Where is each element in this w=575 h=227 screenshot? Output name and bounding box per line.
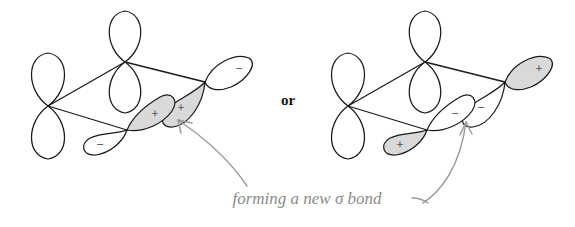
p-lobe-top — [32, 53, 65, 106]
p-lobe-bottom — [332, 106, 365, 159]
p-lobe-outer-plus — [384, 130, 427, 155]
right-orbital-structure: + − − + — [332, 11, 553, 159]
arrow-curve — [423, 122, 466, 203]
p-lobe-bottom — [32, 106, 65, 159]
sign-upper-inner: + — [177, 100, 184, 115]
p-lobe-outer-minus — [84, 130, 127, 155]
right-structure-center-p-orbital — [409, 11, 441, 113]
sign-upper-outer: + — [535, 61, 542, 76]
sign-right-lower-outer: + — [396, 137, 403, 152]
left-structure-center-p-orbital — [109, 11, 141, 113]
p-lobe-outer-minus — [205, 56, 252, 89]
sign-upper-inner: − — [477, 100, 484, 115]
left-annotation-arrow — [178, 120, 247, 186]
sign-lower-inner: + — [151, 106, 158, 121]
or-connector-label: or — [281, 92, 296, 108]
p-lobe-top — [332, 53, 365, 106]
p-lobe-bottom — [109, 62, 141, 113]
sign-lower-outer: − — [96, 137, 103, 152]
caption-label: forming a new σ bond — [232, 189, 382, 208]
p-lobe-bottom — [409, 62, 441, 113]
left-structure-left-p-orbital — [32, 53, 65, 159]
p-lobe-top — [409, 11, 441, 62]
right-annotation-arrow — [423, 122, 472, 203]
p-lobe-top — [109, 11, 141, 62]
orbital-overlap-figure: − + − + or + — [0, 0, 575, 227]
right-structure-upper-right-p-orbital: + − — [462, 56, 552, 127]
right-structure-left-p-orbital — [332, 53, 365, 159]
left-structure-upper-right-p-orbital: − + — [162, 56, 252, 127]
sign-upper-outer: − — [235, 61, 242, 76]
left-orbital-structure: − + − + — [32, 11, 253, 159]
p-lobe-outer-plus — [505, 56, 552, 89]
arrow-curve — [178, 120, 247, 186]
sign-lower-inner: − — [451, 106, 458, 121]
